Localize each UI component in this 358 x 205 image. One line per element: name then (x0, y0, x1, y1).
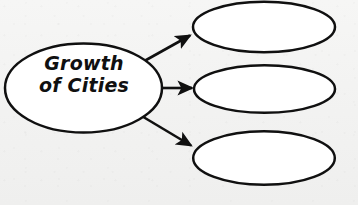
connector-arrow-to-branch-1 (139, 36, 190, 65)
branch-3-ellipse[interactable] (193, 131, 335, 185)
diagram-canvas (0, 0, 358, 205)
concept-map-diagram: Growth of Cities (0, 0, 358, 205)
branch-1-ellipse[interactable] (193, 2, 335, 52)
branch-2-ellipse[interactable] (194, 65, 335, 113)
root-node-ellipse (5, 44, 162, 133)
connector-arrow-to-branch-3 (140, 115, 191, 146)
